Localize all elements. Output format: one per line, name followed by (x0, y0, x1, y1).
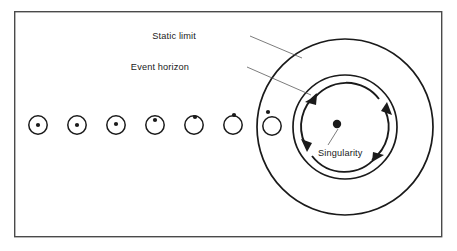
singularity-dot (333, 120, 341, 128)
singularity-label: Singularity (318, 148, 363, 158)
collapse-star-1-singularity-dot (36, 123, 40, 127)
collapse-star-2-singularity-dot (75, 123, 79, 127)
static-limit-label: Static limit (152, 31, 196, 41)
black-hole-diagram: Static limit Event horizon Singularity (0, 0, 457, 251)
event-horizon-label: Event horizon (131, 62, 189, 72)
collapse-star-4-singularity-dot (153, 118, 157, 122)
collapse-star-6-singularity-dot (232, 113, 236, 117)
collapse-star-6 (224, 116, 242, 134)
collapse-star-7 (263, 117, 281, 135)
collapse-star-5-singularity-dot (193, 115, 197, 119)
collapse-star-7-singularity-dot (266, 110, 270, 114)
collapse-star-3-singularity-dot (114, 122, 118, 126)
figure-root: Static limit Event horizon Singularity (0, 0, 457, 251)
